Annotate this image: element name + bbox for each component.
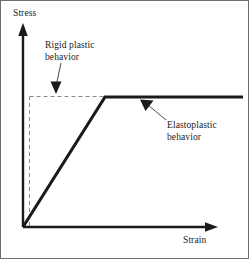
y-axis xyxy=(18,23,28,227)
y-axis-label: Stress xyxy=(13,8,36,20)
elastoplastic-annotation-line2: behavior xyxy=(167,132,217,144)
elastoplastic-curve xyxy=(23,97,243,227)
elastoplastic-leader xyxy=(140,100,166,121)
x-axis-label: Strain xyxy=(183,235,206,247)
elastoplastic-annotation-line1: Elastoplastic xyxy=(167,120,217,132)
rigid-plastic-leader xyxy=(51,63,62,94)
rigid-plastic-annotation-line2: behavior xyxy=(45,52,95,64)
x-axis xyxy=(23,222,218,232)
rigid-plastic-dashed-curve xyxy=(30,97,124,227)
rigid-plastic-annotation: Rigid plastic behavior xyxy=(45,40,95,63)
rigid-plastic-annotation-line1: Rigid plastic xyxy=(45,40,95,52)
stress-strain-figure: Stress Strain Rigid plastic behavior Ela… xyxy=(0,0,250,260)
elastoplastic-annotation: Elastoplastic behavior xyxy=(167,120,217,143)
